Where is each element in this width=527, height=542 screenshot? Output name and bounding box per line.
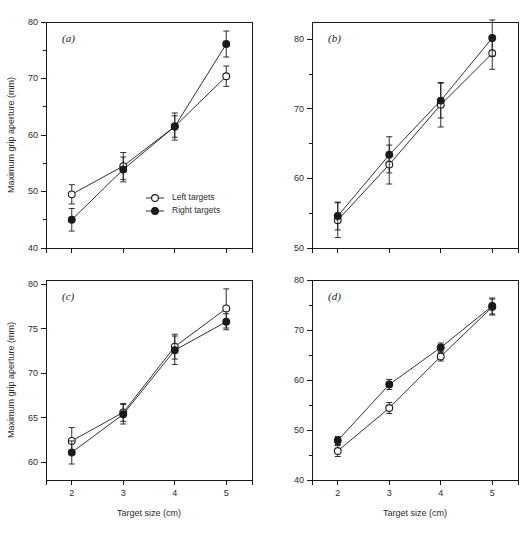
- panel-c: 60657075802345(c)Maximum grip aperture (…: [0, 268, 262, 542]
- panel-letter-a: (a): [62, 32, 75, 45]
- x-axis-title-c: Target size (cm): [117, 508, 181, 518]
- data-point-a-0-0[interactable]: [68, 191, 75, 198]
- y-tick-label-d-70: 70: [294, 325, 304, 335]
- y-tick-label-d-40: 40: [294, 475, 304, 485]
- y-tick-label-b-50: 50: [294, 243, 304, 253]
- data-point-b-1-2[interactable]: [437, 97, 444, 104]
- panel-letter-c: (c): [62, 290, 75, 303]
- y-tick-label-d-50: 50: [294, 425, 304, 435]
- y-tick-label-c-80: 80: [28, 279, 38, 289]
- y-tick-label-d-80: 80: [294, 275, 304, 285]
- panel-b: 50607080(b): [262, 8, 527, 270]
- data-point-c-1-3[interactable]: [223, 318, 230, 325]
- series-line-b-0: [338, 53, 493, 220]
- y-tick-label-b-60: 60: [294, 173, 304, 183]
- series-line-d-0: [338, 307, 493, 451]
- data-point-a-1-0[interactable]: [68, 216, 75, 223]
- x-tick-label-d-5: 5: [490, 488, 495, 498]
- x-tick-label-c-4: 4: [172, 488, 177, 498]
- y-tick-label-a-60: 60: [28, 130, 38, 140]
- plot-area-c: 60657075802345(c)Maximum grip aperture (…: [0, 268, 262, 542]
- y-tick-label-c-75: 75: [28, 324, 38, 334]
- y-tick-label-a-70: 70: [28, 73, 38, 83]
- y-tick-label-c-60: 60: [28, 457, 38, 467]
- y-tick-label-c-65: 65: [28, 413, 38, 423]
- panel-letter-d: (d): [328, 290, 341, 303]
- data-point-b-1-0[interactable]: [334, 213, 341, 220]
- data-point-d-1-0[interactable]: [334, 437, 341, 444]
- svg-text:Right targets: Right targets: [172, 205, 220, 215]
- legend-entry-left-targets: Left targets: [146, 192, 215, 202]
- y-tick-label-a-40: 40: [28, 243, 38, 253]
- data-point-a-0-3[interactable]: [223, 73, 230, 80]
- y-axis-title-c: Maximum grip aperture (mm): [6, 322, 16, 438]
- data-point-c-1-2[interactable]: [171, 347, 178, 354]
- x-axis-title-d: Target size (cm): [383, 508, 447, 518]
- x-tick-label-d-2: 2: [335, 488, 340, 498]
- data-point-b-1-3[interactable]: [489, 35, 496, 42]
- x-tick-label-d-3: 3: [387, 488, 392, 498]
- data-point-a-1-2[interactable]: [171, 123, 178, 130]
- legend-entry-right-targets: Right targets: [146, 205, 220, 215]
- data-point-d-1-3[interactable]: [489, 303, 496, 310]
- data-point-c-0-3[interactable]: [223, 305, 230, 312]
- plot-area-b: 50607080(b): [262, 8, 527, 270]
- figure-canvas: 4050607080(a)Maximum grip aperture (mm)L…: [0, 0, 527, 542]
- data-point-d-0-1[interactable]: [386, 405, 393, 412]
- data-point-a-1-3[interactable]: [223, 41, 230, 48]
- data-point-a-1-1[interactable]: [120, 166, 127, 173]
- y-tick-label-d-60: 60: [294, 375, 304, 385]
- series-line-c-1: [72, 322, 227, 453]
- x-tick-label-c-5: 5: [224, 488, 229, 498]
- x-tick-label-c-3: 3: [121, 488, 126, 498]
- y-tick-label-a-50: 50: [28, 186, 38, 196]
- x-tick-label-c-2: 2: [69, 488, 74, 498]
- data-point-c-1-0[interactable]: [68, 449, 75, 456]
- plot-area-d: 40506070802345(d)Target size (cm): [262, 268, 527, 542]
- data-point-d-0-0[interactable]: [334, 448, 341, 455]
- series-line-c-0: [72, 308, 227, 440]
- data-point-d-1-2[interactable]: [437, 344, 444, 351]
- data-point-d-0-2[interactable]: [437, 353, 444, 360]
- data-point-b-1-1[interactable]: [386, 151, 393, 158]
- data-point-d-1-1[interactable]: [386, 381, 393, 388]
- series-line-a-0: [72, 76, 227, 194]
- plot-area-a: 4050607080(a)Maximum grip aperture (mm)L…: [0, 8, 262, 270]
- y-tick-label-a-80: 80: [28, 17, 38, 27]
- panel-a: 4050607080(a)Maximum grip aperture (mm)L…: [0, 8, 262, 270]
- y-tick-label-c-70: 70: [28, 368, 38, 378]
- y-tick-label-b-70: 70: [294, 104, 304, 114]
- data-point-c-1-1[interactable]: [120, 411, 127, 418]
- panel-d: 40506070802345(d)Target size (cm): [262, 268, 527, 542]
- panel-letter-b: (b): [328, 32, 341, 45]
- y-tick-label-b-80: 80: [294, 34, 304, 44]
- x-tick-label-d-4: 4: [438, 488, 443, 498]
- svg-text:Left targets: Left targets: [172, 192, 215, 202]
- y-axis-title-a: Maximum grip aperture (mm): [6, 77, 16, 193]
- series-line-d-1: [338, 306, 493, 441]
- series-line-b-1: [338, 38, 493, 216]
